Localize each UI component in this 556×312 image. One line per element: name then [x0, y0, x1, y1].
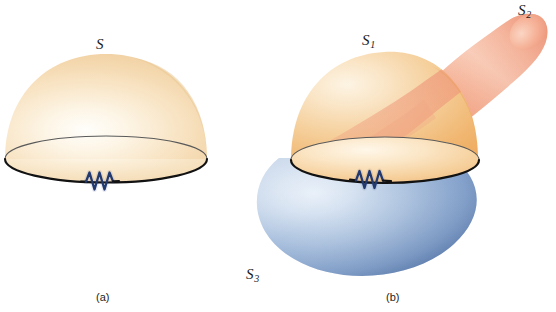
surface-label-s2-base: S	[518, 2, 526, 18]
surface-label-s3: S3	[246, 266, 259, 284]
surface-label-s-base: S	[96, 36, 104, 52]
surface-label-s1-subscript: 1	[370, 39, 375, 50]
surface-label-s: S	[96, 36, 104, 53]
surface-label-s1: S1	[362, 32, 375, 50]
surface-label-s2: S2	[518, 2, 531, 20]
panel-caption-a: (a)	[96, 291, 109, 303]
surface-label-s3-base: S	[246, 266, 254, 282]
surface-s-dome	[5, 54, 207, 159]
figure-artwork	[0, 0, 556, 312]
panel-a-artwork	[5, 54, 207, 190]
surface-label-s1-base: S	[362, 32, 370, 48]
surface-label-s2-subscript: 2	[526, 9, 531, 20]
panel-b-artwork	[257, 7, 554, 276]
figure-root: S S1 S2 S3 (a) (b)	[0, 0, 556, 312]
panel-caption-b: (b)	[386, 291, 399, 303]
surface-label-s3-subscript: 3	[254, 273, 259, 284]
